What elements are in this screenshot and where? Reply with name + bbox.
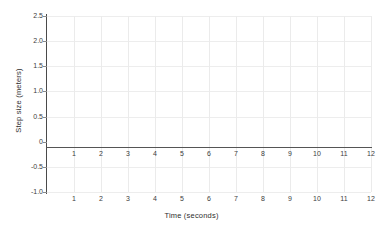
y-tick-mark xyxy=(43,117,47,118)
y-tick-label: 0 xyxy=(39,138,43,146)
x-tick-label-bottom: 2 xyxy=(91,195,111,203)
x-tick-label: 1 xyxy=(64,150,84,158)
gridline-vertical xyxy=(263,16,264,192)
gridline-vertical xyxy=(371,16,372,192)
y-tick-mark xyxy=(43,16,47,17)
y-tick-mark xyxy=(43,167,47,168)
gridline-vertical xyxy=(128,16,129,192)
x-tick-label-bottom: 9 xyxy=(280,195,300,203)
gridline-vertical xyxy=(155,16,156,192)
gridline-vertical xyxy=(317,16,318,192)
gridline-vertical xyxy=(182,16,183,192)
y-tick-label: 0.5 xyxy=(33,113,43,121)
gridline-vertical xyxy=(101,16,102,192)
y-axis-title: Step size (meters) xyxy=(14,41,23,161)
gridline-vertical xyxy=(290,16,291,192)
x-tick-label-bottom: 6 xyxy=(199,195,219,203)
x-tick-label: 12 xyxy=(361,150,381,158)
x-axis-line xyxy=(46,147,372,148)
y-tick-label: -1.0 xyxy=(31,188,43,196)
x-tick-label-bottom: 8 xyxy=(253,195,273,203)
x-tick-label-bottom: 12 xyxy=(361,195,381,203)
y-tick-label: 1.0 xyxy=(33,87,43,95)
x-tick-label-bottom: 11 xyxy=(334,195,354,203)
x-tick-label-bottom: 3 xyxy=(118,195,138,203)
gridline-vertical xyxy=(236,16,237,192)
x-tick-label-bottom: 4 xyxy=(145,195,165,203)
y-tick-label: 2.0 xyxy=(33,37,43,45)
x-tick-label-bottom: 1 xyxy=(64,195,84,203)
x-tick-label: 6 xyxy=(199,150,219,158)
x-tick-label: 9 xyxy=(280,150,300,158)
x-tick-label: 8 xyxy=(253,150,273,158)
x-tick-label: 10 xyxy=(307,150,327,158)
x-tick-label: 4 xyxy=(145,150,165,158)
y-tick-mark xyxy=(43,91,47,92)
y-tick-mark xyxy=(43,66,47,67)
y-tick-label: -0.5 xyxy=(31,163,43,171)
x-tick-label-bottom: 7 xyxy=(226,195,246,203)
gridline-vertical xyxy=(74,16,75,192)
x-tick-label: 7 xyxy=(226,150,246,158)
gridline-vertical xyxy=(209,16,210,192)
chart-canvas: 2.5 2.0 1.5 1.0 0.5 0 -0.5 -1.0 1 2 3 4 … xyxy=(0,0,383,232)
x-tick-label-bottom: 10 xyxy=(307,195,327,203)
y-tick-label: 1.5 xyxy=(33,62,43,70)
x-tick-label-bottom: 5 xyxy=(172,195,192,203)
x-tick-label: 11 xyxy=(334,150,354,158)
y-tick-label: 2.5 xyxy=(33,12,43,20)
x-tick-label: 3 xyxy=(118,150,138,158)
x-tick-label: 2 xyxy=(91,150,111,158)
gridline-horizontal xyxy=(47,192,371,193)
gridline-vertical xyxy=(344,16,345,192)
y-tick-mark xyxy=(43,192,47,193)
x-axis-title: Time (seconds) xyxy=(0,211,383,220)
x-tick-label: 5 xyxy=(172,150,192,158)
y-tick-mark xyxy=(43,41,47,42)
y-tick-mark xyxy=(43,142,47,143)
